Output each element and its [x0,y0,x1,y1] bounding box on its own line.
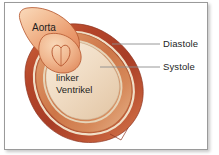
label-aorta: Aorta [32,22,56,33]
label-systole: Systole [163,61,195,72]
label-left-ventricle-line1: linker [56,72,92,84]
label-diastole: Diastole [163,38,198,49]
figure-root: Aorta linker Ventrikel Diastole Systole [0,0,219,155]
label-left-ventricle-line2: Ventrikel [56,84,92,96]
label-left-ventricle: linker Ventrikel [56,72,92,95]
